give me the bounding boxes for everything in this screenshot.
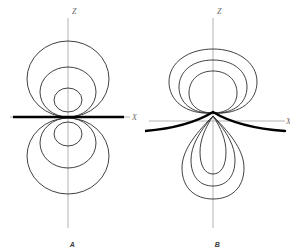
panel-b: Z X B <box>145 0 290 251</box>
z-axis-label-b: Z <box>217 7 222 16</box>
panel-b-plot: Z X <box>145 0 290 251</box>
panel-a-caption: A <box>0 241 145 248</box>
z-axis-label-a: Z <box>72 7 77 16</box>
panel-b-caption: B <box>145 241 290 248</box>
x-axis-label-b: X <box>285 117 290 126</box>
x-axis-label-a: X <box>131 113 138 122</box>
panel-a-plot: Z X <box>0 0 145 251</box>
figure-container: Z X A Z X <box>0 0 290 251</box>
panel-a: Z X A <box>0 0 145 251</box>
